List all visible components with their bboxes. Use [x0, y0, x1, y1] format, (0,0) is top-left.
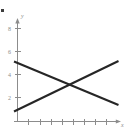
y-tick-label-8: 8	[8, 26, 11, 32]
chart-figure: y x 8 6 4 2	[0, 0, 127, 129]
y-tick-label-4: 4	[8, 72, 11, 78]
y-axis-arrowhead	[15, 18, 19, 23]
line-chart-plot: y x 8 6 4 2	[0, 0, 127, 129]
x-axis-label: x	[120, 122, 124, 128]
y-tick-label-2: 2	[8, 95, 11, 101]
y-tick-label-6: 6	[8, 49, 11, 55]
y-axis-label: y	[20, 13, 24, 19]
